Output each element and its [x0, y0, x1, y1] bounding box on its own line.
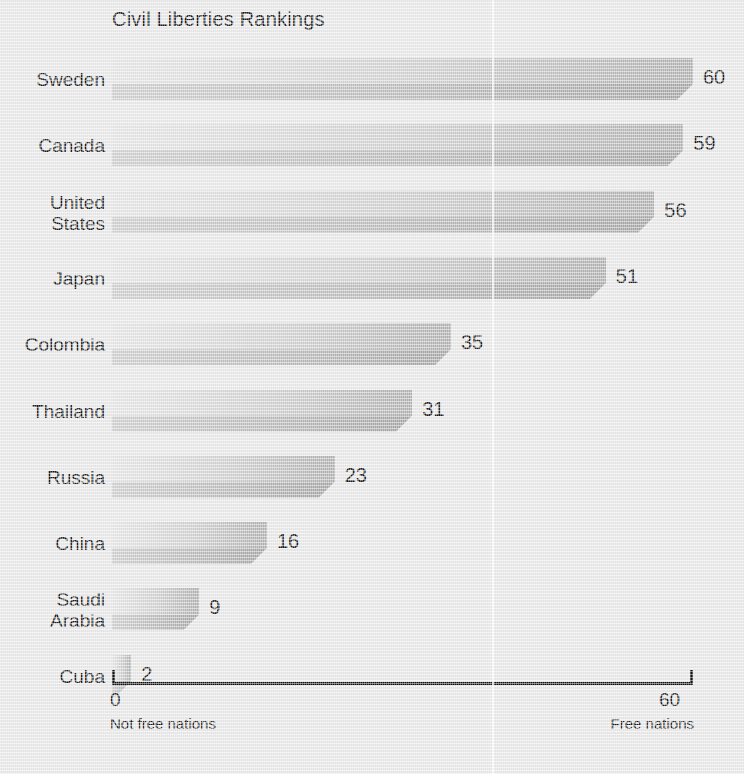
- bar-row: Colombia35: [0, 323, 744, 365]
- bar-value-label: 9: [209, 596, 220, 619]
- bar-row: China16: [0, 522, 744, 564]
- bar-top-face: [112, 257, 606, 283]
- bar: [112, 456, 335, 498]
- bar-front-face: [112, 482, 335, 498]
- bar-row: Canada59: [0, 124, 744, 166]
- bar-top-face: [112, 522, 267, 548]
- bar-category-label: Saudi Arabia: [0, 589, 105, 631]
- bar-top-face: [112, 124, 683, 150]
- bar-front-face: [112, 150, 683, 166]
- x-axis-tick-max: [690, 670, 693, 685]
- x-axis-tick-min: [112, 670, 115, 685]
- bar-value-label: 16: [277, 530, 299, 553]
- bar-value-label: 60: [703, 66, 725, 89]
- bar-category-label: Canada: [0, 135, 105, 156]
- bar-value-label: 59: [693, 132, 715, 155]
- bar-front-face: [112, 283, 606, 299]
- bar-front-face: [112, 217, 654, 233]
- bar-front-face: [112, 416, 412, 432]
- bar-top-face: [112, 58, 693, 84]
- bar: [112, 323, 451, 365]
- bar-front-face: [112, 548, 267, 564]
- bar-category-label: Sweden: [0, 69, 105, 90]
- bar-category-label: Colombia: [0, 334, 105, 355]
- bar-category-label: China: [0, 533, 105, 554]
- x-axis-min-caption: Not free nations: [110, 715, 216, 732]
- bar-category-label: Cuba: [0, 666, 105, 687]
- bar-row: Japan51: [0, 257, 744, 299]
- bar: [112, 257, 606, 299]
- bar-top-face: [112, 456, 335, 482]
- bar: [112, 588, 199, 630]
- bar-front-face: [112, 84, 693, 100]
- bar-top-face: [112, 191, 654, 217]
- bar-category-label: Japan: [0, 268, 105, 289]
- bar-chart: Civil Liberties Rankings Sweden60Canada5…: [0, 0, 744, 774]
- x-axis-max-label: 60: [659, 689, 680, 711]
- chart-title: Civil Liberties Rankings: [112, 8, 325, 31]
- bar: [112, 58, 693, 100]
- bar-value-label: 31: [422, 398, 444, 421]
- bar-row: Russia23: [0, 456, 744, 498]
- bar-category-label: Thailand: [0, 401, 105, 422]
- bar-top-face: [112, 390, 412, 416]
- bar-category-label: Russia: [0, 467, 105, 488]
- bar-value-label: 23: [345, 464, 367, 487]
- x-axis-min-label: 0: [110, 689, 121, 711]
- bar-row: Saudi Arabia9: [0, 588, 744, 630]
- x-axis-max-caption: Free nations: [600, 715, 694, 732]
- bar-front-face: [112, 614, 199, 630]
- bar-top-face: [112, 588, 199, 614]
- bar: [112, 191, 654, 233]
- bar-row: Sweden60: [0, 58, 744, 100]
- bar-front-face: [112, 349, 451, 365]
- bar-row: United States56: [0, 191, 744, 233]
- bar-value-label: 35: [461, 331, 483, 354]
- bar-top-face: [112, 323, 451, 349]
- x-axis-line: [112, 682, 693, 685]
- bar-category-label: United States: [0, 192, 105, 234]
- bar-value-label: 56: [664, 199, 686, 222]
- bar-value-label: 51: [616, 265, 638, 288]
- bar-row: Thailand31: [0, 390, 744, 432]
- bar: [112, 390, 412, 432]
- bar: [112, 522, 267, 564]
- bar: [112, 124, 683, 166]
